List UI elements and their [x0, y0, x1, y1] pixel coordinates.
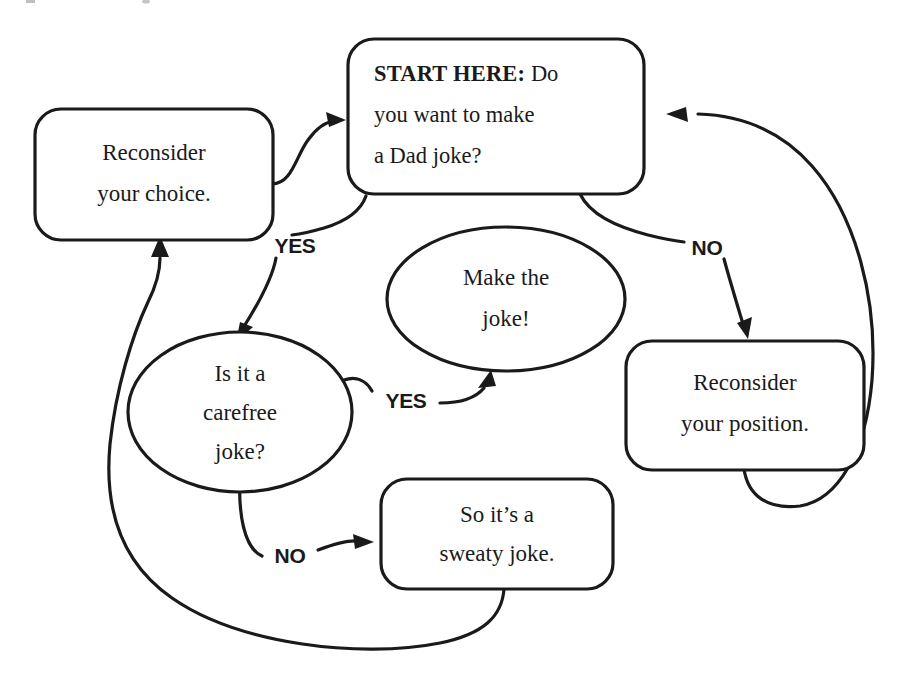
edge-carefree-yes-arrowhead — [478, 370, 496, 388]
edge-position-to-start-arrowhead — [666, 107, 688, 122]
edge-choice-to-start — [272, 121, 334, 184]
node-sweaty-joke-line1: So it’s a — [460, 502, 534, 527]
node-reconsider-position-line2: your position. — [681, 411, 809, 436]
node-carefree-question-line1: Is it a — [214, 361, 265, 386]
node-carefree-question-line3: joke? — [214, 439, 265, 464]
node-sweaty-joke-shape — [381, 479, 613, 589]
node-reconsider-choice-line1: Reconsider — [102, 140, 206, 165]
node-reconsider-position[interactable]: Reconsider your position. — [626, 341, 864, 470]
node-reconsider-choice-line2: your choice. — [97, 181, 211, 206]
edge-choice-to-start-arrowhead — [326, 112, 346, 127]
node-reconsider-choice[interactable]: Reconsider your choice. — [35, 109, 273, 240]
node-start-bold-label: START HERE: — [374, 61, 525, 86]
node-make-the-joke[interactable]: Make the joke! — [387, 227, 625, 371]
edge-carefree-yes-right — [440, 388, 484, 403]
node-sweaty-joke[interactable]: So it’s a sweaty joke. — [381, 479, 613, 589]
node-carefree-question[interactable]: Is it a carefree joke? — [128, 332, 352, 492]
edge-start-no-lower — [724, 259, 743, 324]
flowchart-canvas: START HERE: Do you want to make a Dad jo… — [0, 0, 912, 675]
node-reconsider-choice-shape — [35, 109, 273, 240]
edge-label-carefree-yes: YES — [385, 389, 426, 412]
edge-start-no-upper — [580, 194, 684, 242]
node-reconsider-position-line1: Reconsider — [693, 370, 797, 395]
scan-artifact — [26, 0, 35, 3]
node-make-the-joke-line2: joke! — [481, 306, 529, 331]
edge-label-start-no: NO — [692, 236, 723, 259]
node-sweaty-joke-line2: sweaty joke. — [440, 541, 555, 566]
node-make-the-joke-shape — [387, 227, 625, 371]
node-carefree-question-line2: carefree — [203, 400, 277, 425]
edge-carefree-no-right — [318, 541, 358, 550]
node-start-line1: START HERE: Do — [374, 61, 558, 86]
flowchart-svg: START HERE: Do you want to make a Dad jo… — [0, 0, 912, 675]
node-start-line1-rest: Do — [525, 61, 558, 86]
node-start-line2: you want to make — [374, 102, 535, 127]
edge-label-start-yes: YES — [274, 234, 315, 257]
node-make-the-joke-line1: Make the — [463, 265, 549, 290]
edge-carefree-no-arrowhead — [353, 534, 374, 549]
edge-label-carefree-no: NO — [275, 544, 306, 567]
edge-start-yes-lower — [243, 258, 276, 328]
scan-artifact — [142, 0, 150, 4]
edge-start-no-arrowhead — [737, 317, 752, 339]
node-reconsider-position-shape — [626, 341, 864, 470]
node-start[interactable]: START HERE: Do you want to make a Dad jo… — [348, 39, 644, 194]
node-start-line3: a Dad joke? — [374, 143, 481, 168]
edge-start-yes-upper — [292, 196, 366, 235]
